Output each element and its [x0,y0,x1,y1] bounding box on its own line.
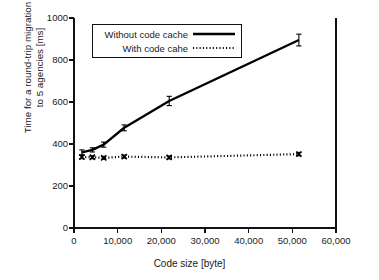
legend-entry-with-code-cache: With code cahe [98,41,236,55]
y-tick-label: 0 [24,223,68,233]
x-tick-label: 60,000 [310,236,362,246]
x-axis-title: Code size [byte] [0,258,379,269]
y-axis-title: Time for a round-trip migration to 5 age… [22,0,45,148]
legend-swatch-solid [192,29,236,39]
series-2 [79,151,301,160]
y-tick-label: 200 [24,181,68,191]
legend-swatch-dotted [192,43,236,53]
chart-legend: Without code cache With code cahe [92,24,242,58]
legend-entry-without-code-cache: Without code cache [98,27,236,41]
legend-label-with-code-cache: With code cahe [123,43,188,54]
legend-label-without-code-cache: Without code cache [105,29,188,40]
series-line [82,154,299,158]
chart-figure: 02004006008001000 010,00020,00030,00040,… [0,0,379,280]
